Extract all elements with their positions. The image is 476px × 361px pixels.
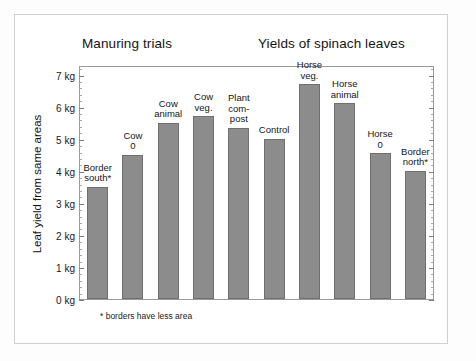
bar[interactable] [193,116,214,299]
y-tick-label: 6 kg [35,102,75,113]
y-tick-label: 5 kg [35,134,75,145]
bar-label: Horse animal [318,79,372,100]
bar[interactable] [370,153,391,299]
bar[interactable] [299,84,320,299]
bar-label: Horse veg. [282,60,336,81]
bar-label: Border south* [71,163,125,184]
bar-label: Control [247,125,301,136]
bar[interactable] [264,139,285,299]
chart-subtitle-left: Manuring trials [82,36,172,51]
bar[interactable] [87,187,108,299]
bar-group[interactable]: Horse 0 [370,67,391,299]
bar[interactable] [158,123,179,299]
bar-group[interactable]: Horse animal [334,67,355,299]
y-tick-label: 3 kg [35,198,75,209]
y-axis-tick-labels: 0 kg1 kg2 kg3 kg4 kg5 kg6 kg7 kg [33,66,75,300]
y-tick-label: 7 kg [35,70,75,81]
bar-series: Border south*Cow 0Cow animalCow veg.Plan… [80,67,433,299]
chart-title-right: Yields of spinach leaves [258,36,405,51]
bar-label: Cow 0 [106,131,160,152]
bar[interactable] [405,171,426,299]
y-tick-label: 0 kg [35,295,75,306]
y-tick-label: 2 kg [35,230,75,241]
y-tick-major [79,300,84,301]
chart-footnote: * borders have less area [100,311,192,321]
y-tick-major-right [429,300,434,301]
bar-group[interactable]: Control [264,67,285,299]
bar-label: Plant com- post [212,93,266,125]
bar[interactable] [122,155,143,299]
bar-group[interactable]: Plant com- post [228,67,249,299]
bar[interactable] [228,128,249,299]
bar-group[interactable]: Horse veg. [299,67,320,299]
chart-page: Manuring trials Yields of spinach leaves… [0,0,476,361]
bar-group[interactable]: Border north* [405,67,426,299]
y-tick-label: 1 kg [35,262,75,273]
bar-group[interactable]: Border south* [87,67,108,299]
y-tick-label: 4 kg [35,166,75,177]
bar-label: Border north* [388,147,442,168]
